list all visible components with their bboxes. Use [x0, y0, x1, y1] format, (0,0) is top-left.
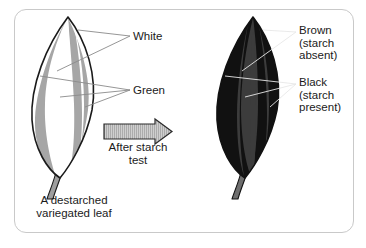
- arrow-caption: After starch test: [99, 141, 177, 166]
- diagram-canvas: White Green Brown (starch absent) Black …: [0, 0, 366, 248]
- right-leaf-group: [217, 17, 279, 199]
- label-brown: Brown (starch absent): [299, 24, 337, 62]
- label-green: Green: [133, 84, 165, 97]
- left-leaf-group: [32, 17, 94, 199]
- label-black: Black (starch present): [299, 76, 341, 114]
- left-leaf-caption: A destarched variegated leaf: [16, 194, 132, 219]
- label-white: White: [133, 30, 162, 43]
